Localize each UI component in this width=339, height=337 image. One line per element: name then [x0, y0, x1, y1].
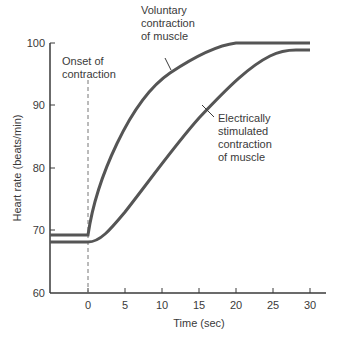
voluntary-label-line3: of muscle — [141, 30, 188, 42]
electrical-label-line1: Electrically — [218, 112, 271, 124]
x-tick-20: 20 — [230, 299, 242, 311]
x-tick-25: 25 — [267, 299, 279, 311]
y-tick-60: 60 — [33, 287, 45, 299]
x-tick-0: 0 — [85, 299, 91, 311]
x-ticks: 0 5 10 15 20 25 30 — [85, 288, 316, 311]
x-tick-10: 10 — [156, 299, 168, 311]
electrical-label-line4: of muscle — [218, 151, 265, 163]
x-tick-15: 15 — [193, 299, 205, 311]
heart-rate-chart: 100 90 80 70 60 0 5 10 15 20 25 30 Time … — [0, 0, 339, 337]
voluntary-label-line1: Voluntary — [141, 4, 187, 16]
voluntary-label-line2: contraction — [141, 17, 195, 29]
electrical-label-line2: stimulated — [218, 125, 268, 137]
voluntary-leader-line — [165, 58, 171, 70]
y-tick-90: 90 — [33, 99, 45, 111]
onset-label-line1: Onset of — [62, 55, 105, 67]
electrical-label-line3: contraction — [218, 138, 272, 150]
x-tick-5: 5 — [122, 299, 128, 311]
y-tick-100: 100 — [27, 37, 45, 49]
x-tick-30: 30 — [304, 299, 316, 311]
x-axis-label: Time (sec) — [173, 317, 225, 329]
y-tick-70: 70 — [33, 224, 45, 236]
y-axis-label: Heart rate (beats/min) — [11, 115, 23, 222]
y-tick-80: 80 — [33, 162, 45, 174]
onset-label-line2: contraction — [62, 68, 116, 80]
